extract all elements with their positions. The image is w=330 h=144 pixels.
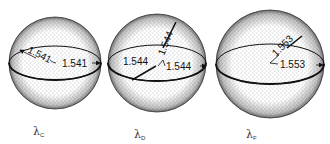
- svg-text:C: C: [40, 132, 45, 138]
- radius-label-right: 1.544: [166, 61, 191, 72]
- svg-text:λ: λ: [33, 125, 40, 138]
- sphere-lambda-c: 1.541 1.541 λ C: [9, 17, 101, 138]
- wavelength-label-f: λ F: [246, 128, 257, 141]
- radius-label-horizontal: 1.553: [280, 59, 305, 70]
- indicatrix-figure: 1.541 1.541 λ C 1.544 1.544 1.544 λ D: [0, 0, 330, 144]
- radius-label-2: 1.541: [62, 58, 87, 69]
- svg-text:λ: λ: [246, 128, 253, 141]
- svg-text:λ: λ: [134, 128, 141, 141]
- radius-label-left: 1.544: [123, 56, 148, 67]
- svg-text:D: D: [141, 135, 146, 141]
- svg-text:F: F: [253, 135, 257, 141]
- wavelength-label-c: λ C: [33, 125, 45, 138]
- sphere-lambda-f: 1.553 1.553 λ F: [216, 10, 324, 141]
- sphere-lambda-d: 1.544 1.544 1.544 λ D: [108, 14, 206, 141]
- wavelength-label-d: λ D: [134, 128, 146, 141]
